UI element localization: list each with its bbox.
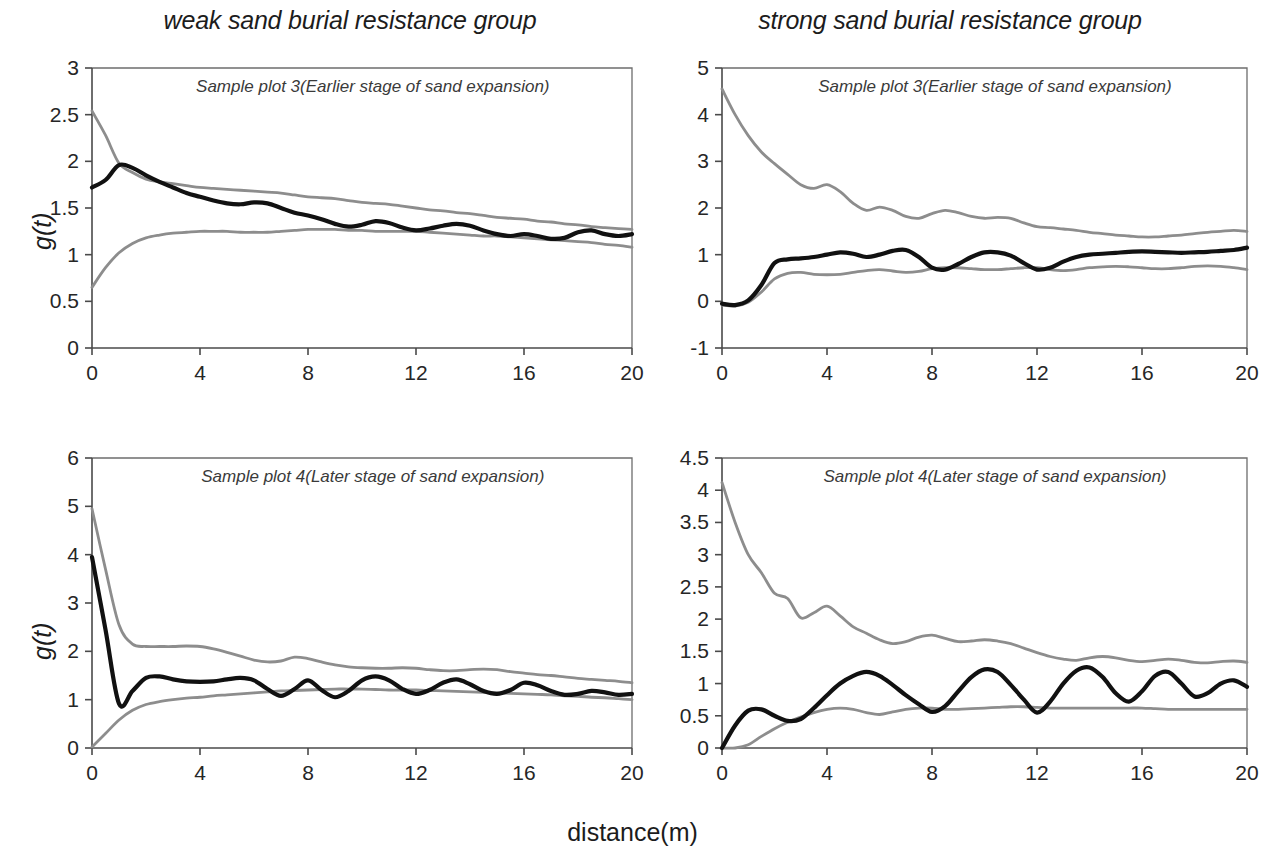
y-tick-label: 3 <box>67 56 79 79</box>
y-tick-label: 0.5 <box>680 704 709 727</box>
chart-panel-weak-earlier: 00.511.522.53048121620Sample plot 3(Earl… <box>0 50 650 410</box>
y-tick-label: 4 <box>67 543 79 566</box>
y-tick-label: 3 <box>697 543 709 566</box>
y-tick-label: 2 <box>697 607 709 630</box>
y-tick-label: 1 <box>67 688 79 711</box>
curve-upper <box>722 482 1247 662</box>
y-tick-label: 2 <box>697 196 709 219</box>
curve-upper <box>92 111 632 230</box>
chart-panel-weak-later: 0123456048121620Sample plot 4(Later stag… <box>0 440 650 810</box>
y-tick-label: 2.5 <box>50 103 79 126</box>
x-tick-label: 20 <box>1235 761 1258 784</box>
y-axis-title-bottom: g(t) <box>28 623 57 661</box>
y-tick-label: -1 <box>690 336 709 359</box>
x-tick-label: 4 <box>194 761 206 784</box>
plot-annotation: Sample plot 4(Later stage of sand expans… <box>201 467 544 486</box>
y-tick-label: 1 <box>67 243 79 266</box>
y-tick-label: 2 <box>67 149 79 172</box>
y-tick-label: 3.5 <box>680 510 709 533</box>
x-tick-label: 16 <box>1130 761 1153 784</box>
curve-upper <box>92 509 632 683</box>
x-tick-label: 8 <box>926 361 938 384</box>
x-tick-label: 8 <box>926 761 938 784</box>
y-tick-label: 0 <box>67 736 79 759</box>
y-tick-label: 1 <box>697 672 709 695</box>
curve-lower <box>722 266 1247 306</box>
x-tick-label: 12 <box>1025 361 1048 384</box>
y-tick-label: 5 <box>697 56 709 79</box>
y-tick-label: 1.5 <box>680 639 709 662</box>
x-tick-label: 4 <box>194 361 206 384</box>
y-tick-label: 0 <box>697 736 709 759</box>
y-tick-label: 3 <box>697 149 709 172</box>
curve-lower <box>92 689 632 747</box>
plot-annotation: Sample plot 4(Later stage of sand expans… <box>823 467 1166 486</box>
x-axis-title: distance(m) <box>0 818 1265 847</box>
chart-svg-weak-earlier: 00.511.522.53048121620Sample plot 3(Earl… <box>0 50 650 410</box>
x-tick-label: 16 <box>512 361 535 384</box>
x-tick-label: 20 <box>1235 361 1258 384</box>
y-tick-label: 3 <box>67 591 79 614</box>
x-tick-label: 12 <box>404 361 427 384</box>
x-tick-label: 12 <box>404 761 427 784</box>
x-tick-label: 8 <box>302 761 314 784</box>
y-tick-label: 0 <box>67 336 79 359</box>
y-tick-label: 6 <box>67 446 79 469</box>
y-tick-label: 2.5 <box>680 575 709 598</box>
y-tick-label: 4 <box>697 103 709 126</box>
plot-annotation: Sample plot 3(Earlier stage of sand expa… <box>818 77 1171 96</box>
x-tick-label: 0 <box>86 361 98 384</box>
y-tick-label: 0 <box>697 289 709 312</box>
y-tick-label: 5 <box>67 494 79 517</box>
figure-container: weak sand burial resistance group strong… <box>0 0 1265 857</box>
x-tick-label: 8 <box>302 361 314 384</box>
chart-panel-strong-earlier: -1012345048121620Sample plot 3(Earlier s… <box>630 50 1265 410</box>
y-tick-label: 1 <box>697 243 709 266</box>
y-tick-label: 4.5 <box>680 446 709 469</box>
group-title-strong: strong sand burial resistance group <box>660 6 1240 35</box>
y-tick-label: 4 <box>697 478 709 501</box>
group-title-weak: weak sand burial resistance group <box>60 6 640 35</box>
plot-frame <box>92 68 632 348</box>
curve-upper <box>722 89 1247 237</box>
curve-lower <box>722 707 1247 749</box>
x-tick-label: 0 <box>716 761 728 784</box>
plot-frame <box>722 458 1247 748</box>
y-axis-title-top: g(t) <box>28 213 57 251</box>
x-tick-label: 16 <box>512 761 535 784</box>
y-tick-label: 2 <box>67 639 79 662</box>
x-tick-label: 4 <box>821 761 833 784</box>
y-tick-label: 0.5 <box>50 289 79 312</box>
x-tick-label: 4 <box>821 361 833 384</box>
x-tick-label: 0 <box>716 361 728 384</box>
plot-frame <box>92 458 632 748</box>
x-tick-label: 12 <box>1025 761 1048 784</box>
plot-frame <box>722 68 1247 348</box>
x-tick-label: 16 <box>1130 361 1153 384</box>
plot-annotation: Sample plot 3(Earlier stage of sand expa… <box>196 77 549 96</box>
curve-center <box>722 248 1247 306</box>
chart-svg-strong-later: 00.511.522.533.544.5048121620Sample plot… <box>630 440 1265 810</box>
curve-center <box>92 557 632 706</box>
x-tick-label: 0 <box>86 761 98 784</box>
chart-svg-weak-later: 0123456048121620Sample plot 4(Later stag… <box>0 440 650 810</box>
chart-svg-strong-earlier: -1012345048121620Sample plot 3(Earlier s… <box>630 50 1265 410</box>
chart-panel-strong-later: 00.511.522.533.544.5048121620Sample plot… <box>630 440 1265 810</box>
